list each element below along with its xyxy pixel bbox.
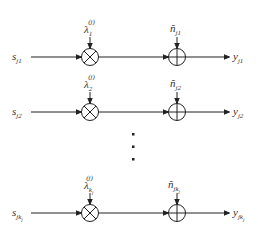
adder-icon — [169, 104, 186, 121]
input-label-2: sj2 — [12, 105, 22, 120]
output-label-k: yjkj — [232, 206, 245, 222]
gain-label-1: λ1(j) — [83, 18, 96, 38]
input-label-1: sj1 — [12, 50, 22, 65]
output-label-1: yj1 — [232, 50, 243, 65]
noise-label-2: ñj2 — [170, 77, 181, 92]
noise-label-1: ñj1 — [170, 22, 181, 37]
gain-label-2: λ2(j) — [83, 73, 96, 93]
noise-label-k: ñjkj — [168, 178, 181, 194]
channel-row-1: sj1 λ1(j) ñj1 yj1 — [12, 18, 243, 66]
channel-diagram: sj1 λ1(j) ñj1 yj1 sj2 — [0, 0, 258, 234]
multiplier-icon — [82, 205, 99, 222]
multiplier-icon — [82, 104, 99, 121]
channel-row-2: sj2 λ2(j) ñj2 yj2 — [12, 73, 244, 121]
channel-row-k: sjkj λkj(j) ñjkj yjkj — [12, 174, 245, 222]
adder-icon — [169, 205, 186, 222]
gain-label-k: λkj(j) — [83, 174, 94, 195]
output-label-2: yj2 — [232, 105, 244, 120]
adder-icon — [169, 49, 186, 66]
vertical-ellipsis-icon — [132, 133, 135, 161]
multiplier-icon — [82, 49, 99, 66]
input-label-k: sjkj — [12, 206, 23, 222]
